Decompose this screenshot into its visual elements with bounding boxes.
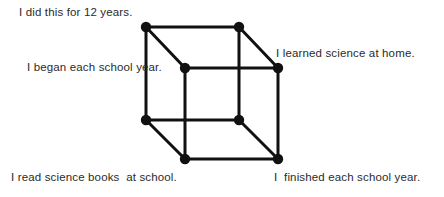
edge-connect-bottom-left (146, 120, 185, 159)
vertex-front-top-left (180, 63, 190, 73)
label-mid-right: I learned science at home. (276, 47, 415, 60)
label-bottom-right: I finished each school year. (274, 171, 420, 184)
label-bottom-left: I read science books at school. (11, 171, 177, 184)
vertex-back-bottom-right (234, 115, 244, 125)
vertex-back-top-left (141, 22, 151, 32)
cube-wireframe (0, 0, 444, 197)
edge-connect-bottom-right (239, 120, 278, 159)
diagram-canvas: I did this for 12 years. I began each sc… (0, 0, 444, 197)
vertex-back-top-right (234, 22, 244, 32)
vertex-front-bottom-right (273, 154, 283, 164)
vertex-front-bottom-left (180, 154, 190, 164)
edge-connect-top-right (239, 27, 278, 68)
cube-edges (146, 27, 278, 159)
vertex-back-bottom-left (141, 115, 151, 125)
vertex-front-top-right (273, 63, 283, 73)
label-top-left: I did this for 12 years. (19, 6, 133, 19)
label-mid-left: I began each school year. (27, 61, 162, 74)
